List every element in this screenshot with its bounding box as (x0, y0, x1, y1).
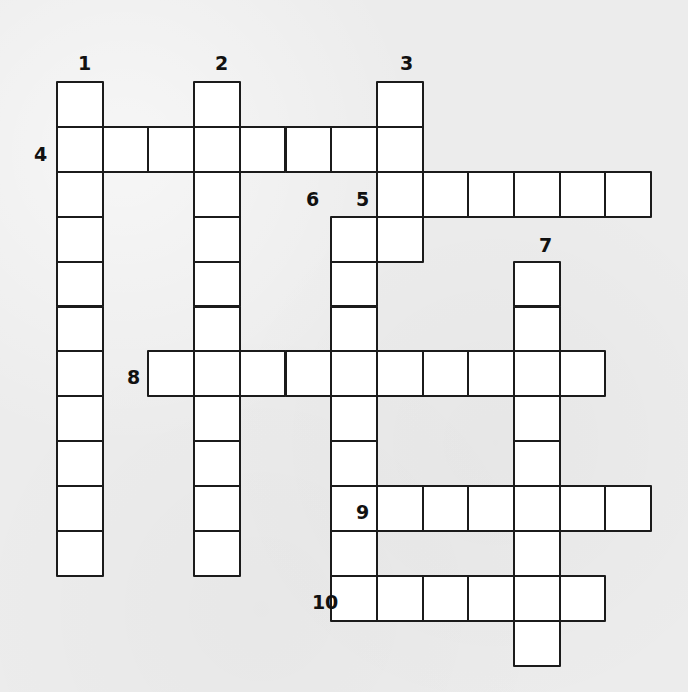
crossword-cell[interactable] (193, 485, 241, 532)
crossword-cell[interactable] (513, 171, 561, 218)
clue-number-1: 1 (78, 54, 91, 73)
crossword-cell[interactable] (147, 350, 195, 397)
crossword-cell[interactable] (330, 126, 378, 173)
crossword-cell[interactable] (56, 261, 104, 308)
clue-number-7: 7 (539, 236, 552, 255)
crossword-cell[interactable] (193, 171, 241, 218)
crossword-cell[interactable] (559, 485, 607, 532)
crossword-cell[interactable] (376, 350, 424, 397)
crossword-cell[interactable] (285, 350, 333, 397)
crossword-cell[interactable] (330, 530, 378, 577)
crossword-cell[interactable] (56, 81, 104, 128)
crossword-cell[interactable] (513, 440, 561, 487)
crossword-cell[interactable] (330, 261, 378, 308)
crossword-cell[interactable] (376, 216, 424, 263)
crossword-cell[interactable] (56, 530, 104, 577)
crossword-cell[interactable] (193, 261, 241, 308)
clue-number-8: 8 (127, 368, 140, 387)
clue-number-3: 3 (400, 54, 413, 73)
crossword-cell[interactable] (422, 575, 470, 622)
crossword-cell[interactable] (559, 171, 607, 218)
crossword-cell[interactable] (56, 306, 104, 353)
crossword-cell[interactable] (193, 306, 241, 353)
crossword-cell[interactable] (56, 395, 104, 442)
crossword-cell[interactable] (239, 350, 287, 397)
crossword-cell[interactable] (330, 395, 378, 442)
crossword-cell[interactable] (467, 575, 515, 622)
crossword-cell[interactable] (285, 126, 333, 173)
crossword-cell[interactable] (330, 485, 378, 532)
crossword-cell[interactable] (193, 530, 241, 577)
crossword-cell[interactable] (56, 440, 104, 487)
crossword-cell[interactable] (513, 575, 561, 622)
crossword-cell[interactable] (422, 171, 470, 218)
crossword-cell[interactable] (422, 485, 470, 532)
crossword-cell[interactable] (56, 216, 104, 263)
crossword-cell[interactable] (193, 440, 241, 487)
crossword-cell[interactable] (513, 395, 561, 442)
crossword-cell[interactable] (559, 575, 607, 622)
crossword-cell[interactable] (513, 485, 561, 532)
crossword-cell[interactable] (513, 261, 561, 308)
crossword-cell[interactable] (193, 216, 241, 263)
crossword-cell[interactable] (56, 126, 104, 173)
crossword-cell[interactable] (467, 171, 515, 218)
clue-number-4: 4 (34, 145, 47, 164)
crossword-cell[interactable] (604, 171, 652, 218)
crossword-cell[interactable] (56, 485, 104, 532)
crossword-cell[interactable] (330, 216, 378, 263)
crossword-cell[interactable] (193, 350, 241, 397)
crossword-cell[interactable] (330, 306, 378, 353)
clue-number-9: 9 (356, 503, 369, 522)
crossword-cell[interactable] (513, 350, 561, 397)
crossword-cell[interactable] (330, 440, 378, 487)
crossword-cell[interactable] (467, 350, 515, 397)
crossword-board: 12345678910 (0, 0, 688, 692)
crossword-cell[interactable] (147, 126, 195, 173)
clue-number-10: 10 (312, 593, 338, 612)
crossword-cell[interactable] (56, 350, 104, 397)
crossword-cell[interactable] (604, 485, 652, 532)
crossword-cell[interactable] (422, 350, 470, 397)
crossword-cell[interactable] (376, 485, 424, 532)
crossword-cell[interactable] (513, 306, 561, 353)
crossword-cell[interactable] (559, 350, 607, 397)
crossword-cell[interactable] (467, 485, 515, 532)
crossword-cell[interactable] (376, 126, 424, 173)
clue-number-6: 6 (306, 190, 319, 209)
crossword-cell[interactable] (193, 81, 241, 128)
crossword-cell[interactable] (376, 171, 424, 218)
crossword-cell[interactable] (376, 575, 424, 622)
crossword-cell[interactable] (376, 81, 424, 128)
crossword-cell[interactable] (513, 620, 561, 667)
crossword-cell[interactable] (193, 126, 241, 173)
crossword-cell[interactable] (102, 126, 150, 173)
crossword-cell[interactable] (56, 171, 104, 218)
clue-number-2: 2 (215, 54, 228, 73)
crossword-cell[interactable] (239, 126, 287, 173)
crossword-cell[interactable] (513, 530, 561, 577)
crossword-cell[interactable] (193, 395, 241, 442)
clue-number-5: 5 (356, 190, 369, 209)
crossword-cell[interactable] (330, 350, 378, 397)
